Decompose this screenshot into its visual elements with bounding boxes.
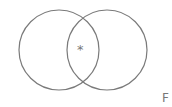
left-circle <box>19 10 99 90</box>
corner-label: F <box>162 91 169 105</box>
venn-diagram <box>0 0 172 107</box>
intersection-marker: * <box>77 42 84 58</box>
